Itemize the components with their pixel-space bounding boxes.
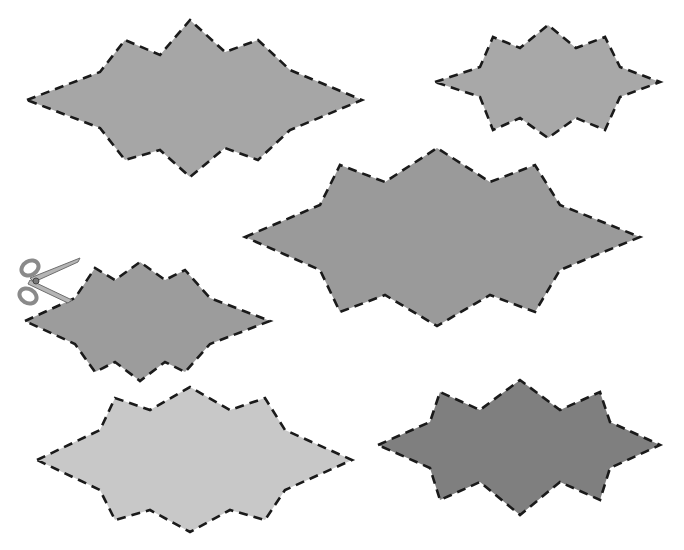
cut-out-worksheet-canvas [0, 0, 684, 550]
shape-left-middle [25, 262, 270, 381]
shape-bottom-left [37, 387, 352, 532]
shape-top-right [435, 25, 660, 138]
dashed-outline [245, 148, 640, 326]
dashed-outline [27, 20, 362, 177]
dashed-outline [378, 380, 660, 515]
scissors-icon [17, 257, 80, 306]
shape-top-left [27, 20, 362, 177]
dashed-outline [37, 387, 352, 532]
dashed-outline [435, 25, 660, 138]
dashed-outline [25, 262, 270, 381]
shapes-layer [25, 20, 660, 532]
shape-bottom-right [378, 380, 660, 515]
shape-center [245, 148, 640, 326]
